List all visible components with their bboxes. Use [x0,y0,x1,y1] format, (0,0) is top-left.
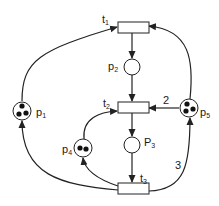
transition-t1[interactable] [118,22,149,33]
arc-t3-p4 [83,158,118,186]
labels: t1 p2 t2 p1 p5 p4 P3 t3 2 3 [36,13,210,185]
arc-p4-t2 [84,111,117,139]
token [83,146,88,151]
arc-weight-p5-t2: 2 [163,94,169,106]
token [16,111,21,116]
arc-p1-t1 [22,27,117,101]
token [184,101,189,106]
place-p3[interactable] [124,137,140,153]
arc-weight-t3-p5: 3 [175,159,181,171]
label-t3: t3 [140,172,147,185]
token [19,103,24,108]
token [23,110,28,115]
label-p4: p4 [62,143,72,156]
token [183,108,188,113]
arc-t3-p5 [149,118,190,191]
transitions [118,22,149,194]
petri-net-diagram: t1 p2 t2 p1 p5 p4 P3 t3 2 3 [0,0,219,206]
label-t2: t2 [103,97,110,110]
label-p5: p5 [200,106,210,119]
token [77,145,82,150]
place-p2[interactable] [124,59,140,75]
place-p4[interactable] [74,139,92,157]
arc-p5-t1 [149,26,191,99]
transition-t2[interactable] [118,102,149,113]
token [190,106,195,111]
label-t1: t1 [102,13,109,26]
label-p1: p1 [36,106,46,119]
label-p2: p2 [108,60,118,73]
label-p3: P3 [144,136,155,149]
